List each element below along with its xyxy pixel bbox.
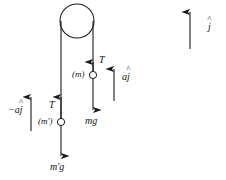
acceleration-left-prefix: −a [8, 104, 20, 115]
acceleration-left-label: −a^j [8, 105, 23, 115]
acceleration-right-label: a^j [122, 72, 130, 82]
pulley-wheel [60, 4, 94, 38]
physics-diagram-atwood-machine: T (m) mg T (m') m'g −a^j a^j ^j [0, 0, 226, 180]
hat-caret-unit: ^ [207, 15, 211, 24]
hat-caret-right: ^ [126, 65, 130, 74]
j-hat-unit: ^j [208, 22, 211, 32]
unit-vector-j-label: ^j [208, 22, 211, 32]
mass-node-m [89, 71, 96, 78]
hat-caret-left: ^ [19, 98, 23, 107]
j-hat-left: ^j [20, 105, 23, 115]
j-hat-right: ^j [127, 72, 130, 82]
mass-node-m-prime [57, 118, 64, 125]
tension-left-label: T [49, 100, 55, 110]
tension-right-label: T [99, 55, 105, 65]
diagram-canvas [0, 0, 226, 180]
mass-right-label: (m) [72, 70, 85, 79]
weight-right-label: mg [85, 116, 97, 126]
mass-left-label: (m') [38, 117, 52, 126]
weight-left-label: m'g [50, 162, 64, 172]
